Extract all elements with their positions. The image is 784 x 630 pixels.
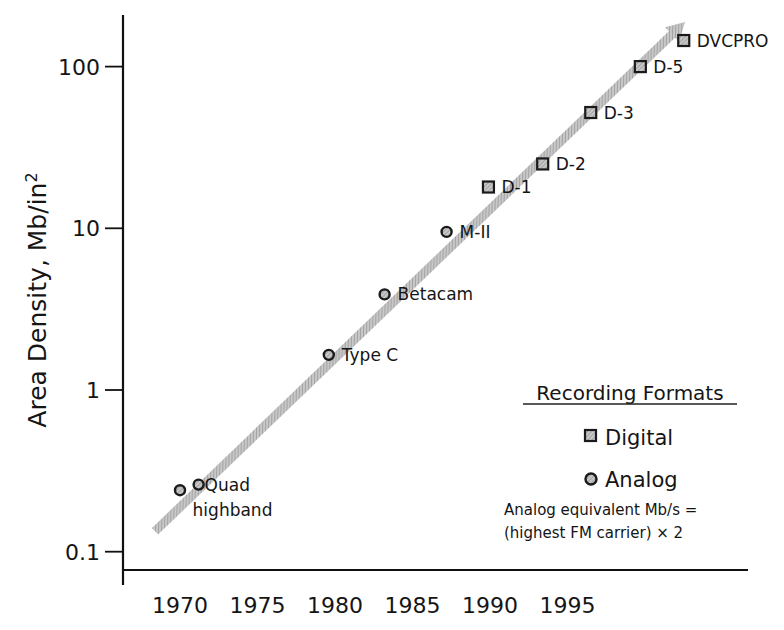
analog-point: Quadhighband	[193, 475, 273, 520]
circle-marker-icon	[175, 485, 185, 495]
point-label: D-2	[556, 154, 586, 174]
data-points: QuadhighbandType CBetacamM-IID-1D-2D-3D-…	[175, 31, 769, 520]
y-tick-label: 10	[72, 216, 100, 241]
digital-point: DVCPRO	[678, 31, 768, 51]
point-label: Quad	[205, 475, 250, 495]
trend-arrow-shaft	[152, 30, 677, 535]
analog-point	[175, 485, 185, 495]
point-label: M-II	[460, 222, 491, 242]
square-marker-icon	[537, 158, 548, 169]
x-tick-label: 1995	[540, 593, 596, 618]
y-tick-label: 0.1	[65, 540, 100, 565]
square-marker-icon	[483, 182, 494, 193]
legend: Recording Formats Digital Analog Analog …	[504, 381, 737, 542]
digital-square-icon	[585, 430, 596, 441]
point-label: Type C	[341, 345, 398, 365]
point-label: Betacam	[398, 284, 474, 304]
x-tick-label: 1975	[230, 593, 286, 618]
square-marker-icon	[678, 35, 689, 46]
digital-point: D-1	[483, 177, 532, 197]
trend-arrow	[148, 15, 692, 539]
circle-marker-icon	[194, 480, 204, 490]
x-tick-label: 1990	[462, 593, 518, 618]
x-tick-labels: 197019751980198519901995	[152, 593, 596, 618]
trend-arrow-shape	[148, 15, 692, 539]
point-label: D-3	[604, 103, 634, 123]
x-tick-label: 1985	[385, 593, 441, 618]
legend-note-line2: (highest FM carrier) × 2	[504, 524, 683, 542]
analog-point: M-II	[442, 222, 491, 242]
y-tick-label: 100	[58, 55, 100, 80]
y-axis-label: Area Density, Mb/in2	[22, 172, 52, 427]
circle-marker-icon	[442, 227, 452, 237]
legend-title: Recording Formats	[536, 381, 723, 405]
circle-marker-icon	[380, 289, 390, 299]
point-label: DVCPRO	[697, 31, 769, 51]
point-label: highband	[193, 500, 273, 520]
y-tick-label: 1	[86, 378, 100, 403]
x-tick-label: 1970	[152, 593, 208, 618]
y-tick-labels: 0.1110100	[58, 55, 123, 565]
point-label: D-1	[501, 177, 531, 197]
analog-circle-icon	[586, 474, 597, 485]
circle-marker-icon	[324, 350, 334, 360]
square-marker-icon	[635, 61, 646, 72]
point-label: D-5	[653, 57, 683, 77]
legend-digital-label: Digital	[605, 426, 673, 450]
x-tick-label: 1980	[307, 593, 363, 618]
square-marker-icon	[585, 107, 596, 118]
legend-note-line1: Analog equivalent Mb/s =	[504, 501, 697, 519]
area-density-chart: 0.1110100 197019751980198519901995 Area …	[0, 0, 784, 630]
legend-analog-label: Analog	[605, 468, 678, 492]
